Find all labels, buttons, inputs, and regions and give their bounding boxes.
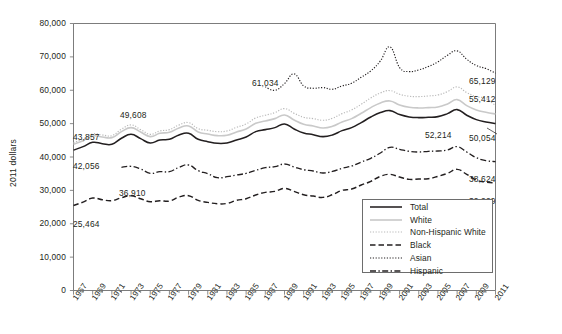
series-line-asian (265, 47, 495, 91)
legend-label: White (410, 215, 432, 225)
legend-swatch-icon (369, 266, 403, 276)
legend-item-asian[interactable]: Asian (369, 252, 492, 264)
data-label-non-hispanic-white: 49,608 (120, 110, 147, 120)
data-label-white: 43,857 (73, 132, 100, 142)
data-label-hispanic: 36,910 (119, 188, 146, 198)
data-label-black: 38,624 (469, 174, 496, 184)
legend-swatch-icon (369, 215, 403, 225)
data-label-non-hispanic-white: 55,412 (469, 94, 496, 104)
data-label-black: 25,464 (73, 219, 100, 229)
legend-swatch-icon (369, 253, 403, 263)
data-label-white: 52,214 (425, 130, 452, 140)
chart-legend: TotalWhiteNon-Hispanic WhiteBlackAsianHi… (362, 199, 493, 273)
legend-item-black[interactable]: Black (369, 239, 492, 251)
legend-item-hispanic[interactable]: Hispanic (369, 265, 492, 277)
legend-swatch-icon (369, 227, 403, 237)
data-label-total: 42,056 (73, 161, 100, 171)
data-label-asian: 61,034 (252, 78, 279, 88)
legend-swatch-icon (369, 240, 403, 250)
legend-label: Asian (410, 253, 431, 263)
legend-label: Hispanic (410, 266, 443, 276)
data-label-total: 50,054 (469, 133, 496, 143)
series-line-hispanic (121, 147, 495, 178)
legend-item-non-hispanic-white[interactable]: Non-Hispanic White (369, 227, 492, 239)
data-label-asian: 65,129 (469, 76, 496, 86)
legend-label: Non-Hispanic White (410, 227, 486, 237)
legend-item-white[interactable]: White (369, 214, 492, 226)
legend-item-total[interactable]: Total (369, 201, 492, 213)
income-by-race-line-chart: 2011 dollars 010,00020,00030,00040,00050… (0, 0, 562, 334)
legend-swatch-icon (369, 202, 403, 212)
legend-label: Black (410, 240, 431, 250)
legend-label: Total (410, 202, 428, 212)
